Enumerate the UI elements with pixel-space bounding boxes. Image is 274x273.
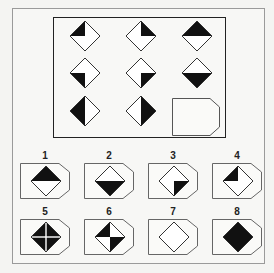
option-diamond-icon (93, 164, 127, 198)
option-label: 6 (84, 206, 134, 217)
option-label: 5 (20, 206, 70, 217)
option-diamond-icon (29, 220, 63, 254)
option-label: 1 (20, 150, 70, 161)
option-diamond-icon (157, 220, 191, 254)
grid-cell-r1c3-diamond-icon (180, 19, 214, 53)
option-label: 7 (148, 206, 198, 217)
answer-slot-shape-icon (172, 98, 220, 136)
option-diamond-icon (221, 220, 255, 254)
grid-cell-r1c2-diamond-icon (124, 19, 158, 53)
option-label: 3 (148, 150, 198, 161)
grid-cell-r1c1-diamond-icon (68, 19, 102, 53)
answer-slot (172, 98, 220, 136)
answer-option-3[interactable] (148, 163, 198, 199)
answer-option-1[interactable] (20, 163, 70, 199)
answer-option-8[interactable] (212, 219, 262, 255)
grid-cell-r3c1-diamond-icon (68, 94, 102, 128)
option-diamond-icon (29, 164, 63, 198)
answer-option-5[interactable] (20, 219, 70, 255)
grid-cell-r2c1-diamond-icon (68, 56, 102, 90)
option-diamond-icon (221, 164, 255, 198)
option-label: 2 (84, 150, 134, 161)
option-label: 8 (212, 206, 262, 217)
grid-cell-r3c2-diamond-icon (124, 94, 158, 128)
answer-option-2[interactable] (84, 163, 134, 199)
option-label: 4 (212, 150, 262, 161)
option-diamond-icon (93, 220, 127, 254)
grid-cell-r2c2-diamond-icon (124, 56, 158, 90)
grid-cell-r2c3-diamond-icon (180, 56, 214, 90)
answer-option-7[interactable] (148, 219, 198, 255)
option-diamond-icon (157, 164, 191, 198)
answer-option-6[interactable] (84, 219, 134, 255)
answer-option-4[interactable] (212, 163, 262, 199)
